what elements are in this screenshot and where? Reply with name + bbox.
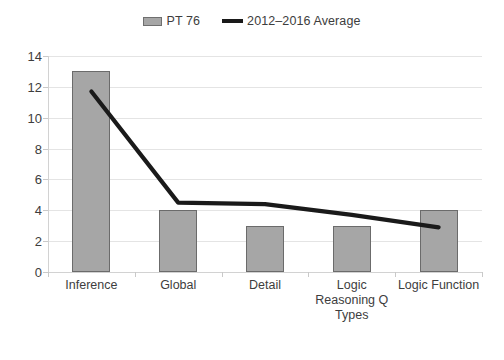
- legend-label-pt76: PT 76: [166, 14, 200, 28]
- legend-label-average: 2012–2016 Average: [247, 14, 360, 28]
- line-swatch-icon: [222, 19, 243, 23]
- x-tick-mark: [482, 272, 483, 277]
- x-axis-line: [48, 272, 482, 273]
- x-tick-mark: [395, 272, 396, 277]
- y-tick-label: 10: [12, 110, 42, 125]
- y-tick-label: 2: [12, 234, 42, 249]
- x-tick-mark: [222, 272, 223, 277]
- x-tick-label: Global: [135, 278, 222, 293]
- x-tick-mark: [135, 272, 136, 277]
- y-tick-label: 14: [12, 49, 42, 64]
- y-tick-label: 4: [12, 203, 42, 218]
- x-tick-label: Logic Reasoning Q Types: [308, 278, 395, 323]
- x-tick-mark: [48, 272, 49, 277]
- y-tick-label: 12: [12, 79, 42, 94]
- y-tick-label: 0: [12, 265, 42, 280]
- x-tick-label: Inference: [48, 278, 135, 293]
- x-tick-label: Detail: [222, 278, 309, 293]
- chart-legend: PT 76 2012–2016 Average: [0, 14, 504, 28]
- line-series-average: [48, 56, 482, 272]
- legend-entry-pt76: PT 76: [143, 14, 200, 28]
- bar-swatch-icon: [143, 17, 162, 26]
- chart-container: PT 76 2012–2016 Average 14121086420 Infe…: [0, 0, 504, 360]
- x-tick-label: Logic Function: [395, 278, 482, 293]
- legend-entry-average: 2012–2016 Average: [222, 14, 360, 28]
- y-tick-label: 8: [12, 141, 42, 156]
- x-axis-labels: InferenceGlobalDetailLogic Reasoning Q T…: [48, 278, 482, 356]
- y-tick-label: 6: [12, 172, 42, 187]
- x-tick-mark: [308, 272, 309, 277]
